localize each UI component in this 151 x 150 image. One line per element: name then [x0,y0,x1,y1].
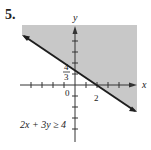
x-tick-label-2: 2 [94,93,99,103]
inequality-label: 2x + 3y ≥ 4 [20,119,66,130]
shaded-region [22,25,137,112]
x-axis-label: x [141,79,147,90]
inequality-graph: y x 0 2 4 3 2x + 3y ≥ 4 [0,0,151,150]
y-frac-denominator: 3 [64,72,69,82]
y-frac-numerator: 4 [64,62,69,72]
y-axis-label: y [72,12,78,23]
origin-label: 0 [65,88,70,98]
